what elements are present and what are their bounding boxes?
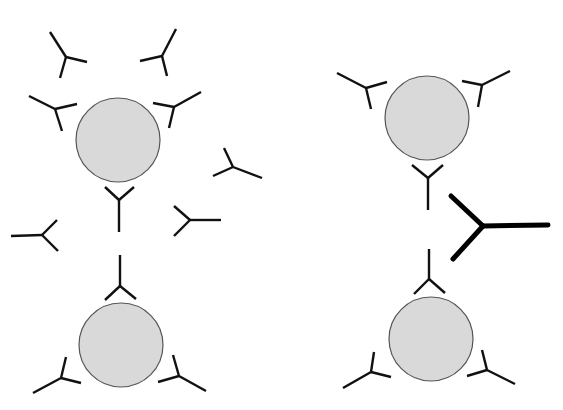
- antibody-arm: [105, 187, 119, 200]
- bead-top-right: [385, 76, 469, 160]
- antibody-arm: [478, 85, 482, 107]
- antibody-arm: [169, 107, 174, 128]
- antibody-arm: [174, 220, 190, 236]
- antibody-arm: [50, 32, 66, 57]
- antibody-arm: [428, 165, 443, 178]
- antibody-arm: [66, 57, 87, 62]
- antibody-ab-12: [337, 73, 387, 109]
- antibody-ab-7: [11, 220, 58, 251]
- antibody-arm: [173, 355, 179, 376]
- bead-antibody-diagram: [0, 0, 563, 410]
- antibody-ab-1: [50, 32, 87, 78]
- antibody-ab-14: [412, 165, 443, 210]
- antibody-arm: [42, 235, 58, 251]
- antibody-arm: [487, 370, 515, 384]
- antibody-arm: [11, 235, 42, 236]
- antibody-ab-10: [33, 357, 81, 393]
- antibody-arm: [33, 378, 61, 393]
- crosslinker-layer: [451, 196, 548, 259]
- antibody-arm: [213, 167, 233, 176]
- antibody-arm: [105, 286, 120, 300]
- antibody-arm: [483, 225, 548, 226]
- antibody-arm: [153, 103, 174, 107]
- antibody-arm: [29, 96, 55, 109]
- antibody-arm: [453, 226, 483, 259]
- bead-bottom-right: [389, 297, 473, 381]
- antibody-arm: [162, 29, 176, 56]
- antibody-arm: [371, 372, 391, 377]
- antibody-arm: [42, 220, 57, 235]
- beads-layer: [76, 76, 473, 387]
- antibody-arm: [429, 279, 445, 293]
- antibody-ab-11: [158, 355, 206, 391]
- antibody-ab-3: [29, 96, 77, 131]
- antibody-arm: [174, 206, 190, 220]
- crosslinker-antibody: [451, 196, 548, 259]
- antibody-ab-9: [105, 255, 136, 300]
- antibody-arm: [60, 57, 66, 78]
- antibody-arm: [224, 148, 233, 167]
- antibody-arm: [61, 378, 81, 383]
- antibody-arm: [467, 370, 487, 376]
- bead-bottom-left: [79, 303, 163, 387]
- antibody-ab-13: [462, 71, 510, 107]
- antibody-ab-17: [467, 350, 515, 384]
- antibody-arm: [482, 71, 510, 85]
- antibody-arm: [366, 88, 371, 109]
- antibody-arm: [162, 56, 167, 76]
- antibody-ab-6: [105, 187, 134, 232]
- bead-top-left: [76, 98, 160, 182]
- antibody-arm: [482, 350, 487, 370]
- antibody-ab-16: [343, 352, 391, 388]
- antibody-arm: [174, 92, 201, 107]
- antibody-ab-15: [414, 249, 445, 294]
- antibody-arm: [462, 81, 482, 85]
- antibody-arm: [158, 376, 179, 382]
- antibody-arm: [120, 286, 136, 299]
- antibody-arm: [337, 73, 366, 88]
- antibody-arm: [233, 167, 262, 178]
- antibody-arm: [140, 56, 162, 61]
- antibody-arm: [414, 279, 429, 294]
- antibody-arm: [55, 109, 62, 131]
- antibody-arm: [55, 104, 77, 109]
- antibody-arm: [451, 196, 483, 226]
- antibody-arm: [343, 372, 371, 388]
- antibody-arm: [371, 352, 374, 372]
- antibody-ab-4: [153, 92, 201, 128]
- antibody-arm: [61, 357, 66, 378]
- antibody-arm: [119, 187, 134, 200]
- antibody-arm: [179, 376, 206, 391]
- antibody-arm: [366, 82, 387, 88]
- antibody-ab-5: [213, 148, 262, 178]
- antibody-ab-2: [140, 29, 176, 76]
- antibody-arm: [412, 165, 428, 178]
- antibody-ab-8: [174, 206, 221, 236]
